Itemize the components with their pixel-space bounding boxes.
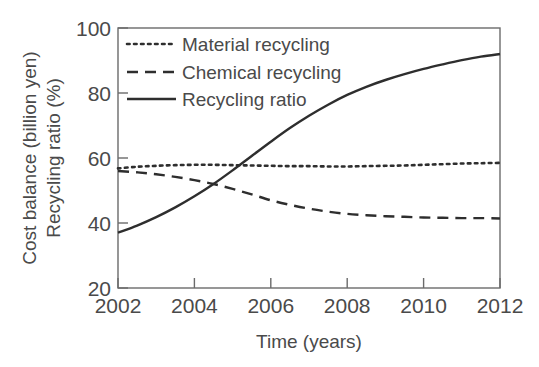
x-axis-tick-labels: 2002 2004 2006 2008 2010 2012 [95, 294, 524, 317]
x-axis-ticks [118, 278, 500, 288]
legend-label-chemical-recycling: Chemical recycling [182, 62, 341, 83]
x-tick-label-2012: 2012 [477, 294, 524, 317]
x-tick-label-2002: 2002 [95, 294, 142, 317]
x-tick-label-2006: 2006 [247, 294, 294, 317]
x-tick-label-2008: 2008 [324, 294, 371, 317]
chart-canvas: 100 80 60 40 20 2002 2004 2006 2008 2010… [0, 0, 539, 367]
series-material-recycling [118, 163, 500, 169]
legend-label-material-recycling: Material recycling [182, 34, 330, 55]
x-axis-title: Time (years) [256, 331, 362, 352]
y-tick-label-40: 40 [88, 212, 111, 235]
x-tick-label-2010: 2010 [400, 294, 447, 317]
y-axis-tick-labels: 100 80 60 40 20 [76, 17, 111, 300]
series-chemical-recycling [118, 171, 500, 218]
y-tick-label-60: 60 [88, 147, 111, 170]
y-tick-label-80: 80 [88, 82, 111, 105]
y-axis-title-line1: Cost balance (billion yen) [19, 51, 40, 264]
y-axis-ticks [118, 28, 128, 288]
chart-figure: 100 80 60 40 20 2002 2004 2006 2008 2010… [0, 0, 539, 367]
legend: Material recycling Chemical recycling Re… [127, 34, 341, 110]
y-tick-label-100: 100 [76, 17, 111, 40]
y-axis-title-line2: Recycling ratio (%) [43, 78, 64, 237]
x-tick-label-2004: 2004 [171, 294, 218, 317]
legend-label-recycling-ratio: Recycling ratio [182, 89, 307, 110]
